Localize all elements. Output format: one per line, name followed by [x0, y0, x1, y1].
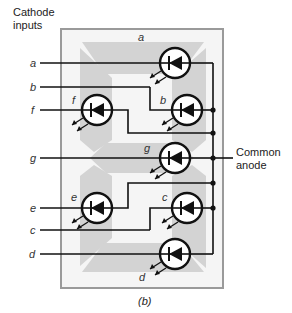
segment-label-b: b: [160, 94, 166, 106]
junction-dot: [210, 155, 215, 160]
input-label-c: c: [30, 224, 36, 236]
segment-label-e: e: [71, 191, 77, 203]
common-anode-label: Common: [236, 146, 281, 158]
input-label-d: d: [29, 248, 36, 260]
junction-dot: [210, 180, 215, 185]
cathode-inputs-label: Cathode: [13, 6, 55, 18]
input-label-b: b: [30, 81, 36, 93]
junction-dot: [210, 130, 215, 135]
figure-caption: (b): [138, 295, 152, 307]
segment-label-a: a: [138, 31, 144, 43]
input-label-f: f: [31, 104, 35, 116]
led-display-diagram: a b f g e c d a b f g e c d Cathode inpu…: [0, 0, 292, 313]
input-label-g: g: [30, 152, 37, 164]
input-label-e: e: [30, 202, 36, 214]
input-label-a: a: [30, 57, 36, 69]
segment-label-g: g: [144, 142, 151, 154]
cathode-inputs-label-2: inputs: [13, 19, 43, 31]
segment-label-c: c: [162, 191, 168, 203]
junction-dot: [210, 107, 215, 112]
junction-dot: [210, 205, 215, 210]
segment-label-d: d: [139, 271, 146, 283]
common-anode-label-2: anode: [236, 159, 267, 171]
